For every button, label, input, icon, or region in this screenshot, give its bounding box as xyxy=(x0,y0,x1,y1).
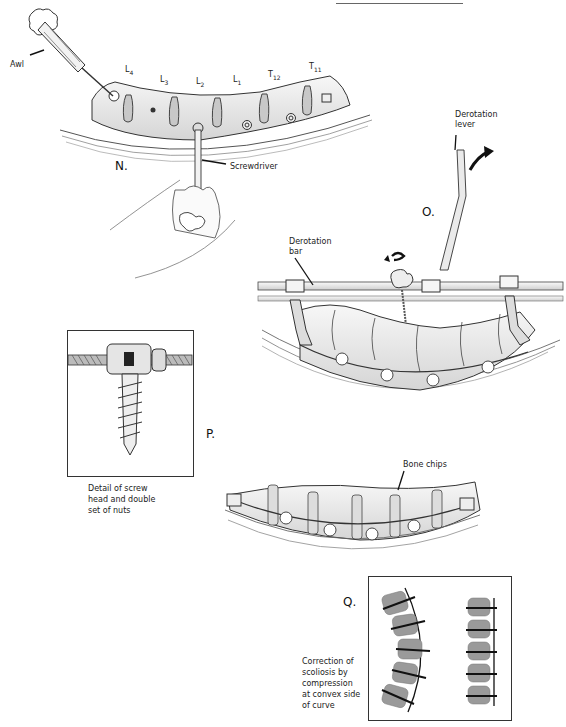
correction-diagram-box xyxy=(368,576,512,721)
derotation-lever-callout-line1: Derotation xyxy=(455,110,497,120)
vertebra-label-l3: L3 xyxy=(160,75,168,88)
vertebra-label-t11: T11 xyxy=(309,62,322,75)
panel-p-spine xyxy=(225,471,480,549)
vertebra-label-l2: L2 xyxy=(196,77,204,90)
screw-detail-caption: Detail of screw head and double set of n… xyxy=(88,483,155,516)
screwdriver-icon xyxy=(110,130,235,278)
panel-label-q: Q. xyxy=(343,595,356,609)
vertebra-label-t12: T12 xyxy=(268,70,281,83)
screwdriver-callout: Screwdriver xyxy=(230,162,278,172)
correction-caption: Correction of scoliosis by compression a… xyxy=(302,656,360,711)
vertebra-label-l4: L4 xyxy=(125,65,133,78)
derotation-lever-callout-line2: lever xyxy=(455,120,475,130)
panel-label-o: O. xyxy=(422,205,435,219)
derotation-bar-callout-line1: Derotation xyxy=(289,237,331,247)
vertebra-label-l1: L1 xyxy=(233,75,241,88)
panel-label-p: P. xyxy=(206,427,215,441)
bone-chips-callout: Bone chips xyxy=(403,460,447,470)
panel-n-spine xyxy=(60,76,372,162)
panel-label-n: N. xyxy=(115,159,128,173)
panel-o-derotation xyxy=(258,135,563,390)
derotation-bar-callout-line2: bar xyxy=(289,247,302,257)
awl-icon xyxy=(29,9,113,96)
screw-detail-box xyxy=(67,330,194,477)
awl-callout: Awl xyxy=(10,60,24,70)
